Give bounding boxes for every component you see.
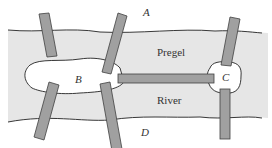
bridge-7 [220,89,230,139]
label-a: A [142,6,150,18]
label-b: B [75,73,82,85]
bridge-5 [118,74,214,83]
konigsberg-bridges-diagram: A B C D Pregel River [0,0,272,148]
label-c: C [222,71,230,83]
label-river: River [157,94,182,106]
label-pregel: Pregel [157,46,185,58]
label-d: D [140,126,149,138]
